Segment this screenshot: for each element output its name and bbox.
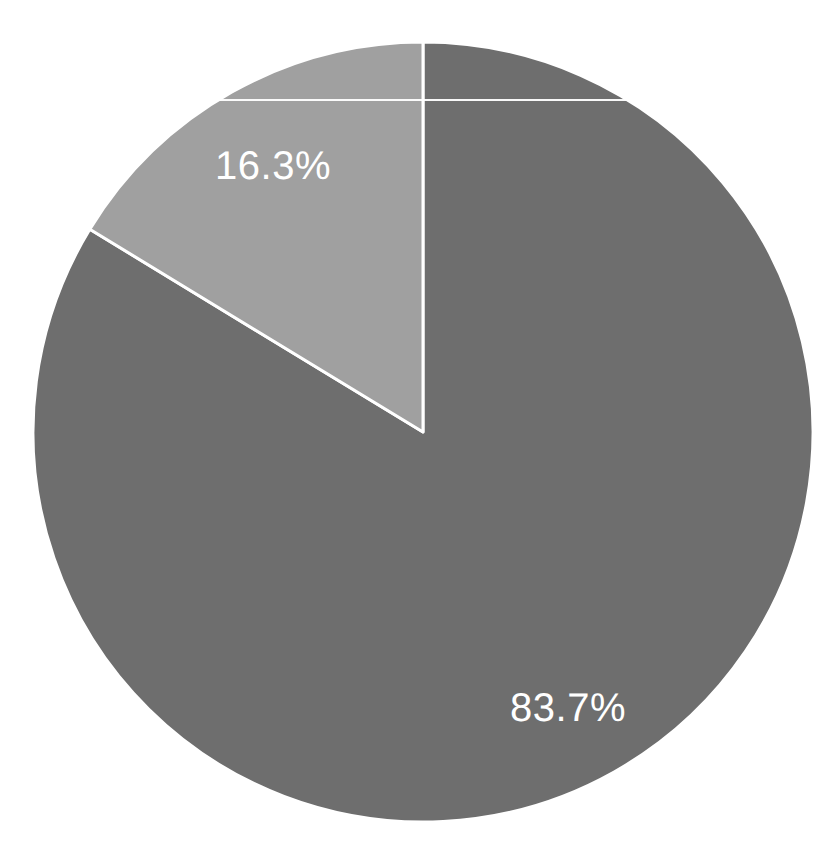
pie-slices-group <box>33 42 813 822</box>
pie-chart-figure: 16.3% 83.7% <box>0 0 836 859</box>
pie-chart-svg <box>0 0 836 859</box>
